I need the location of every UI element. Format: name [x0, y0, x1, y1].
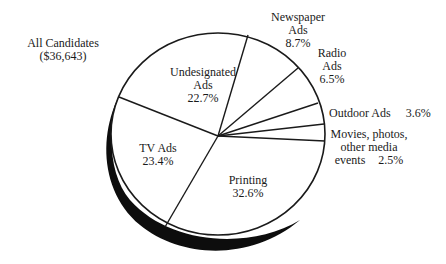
slice-label-printing: Printing 32.6%: [218, 174, 278, 200]
slice-label-outdoor: Outdoor Ads 3.6%: [329, 107, 431, 120]
chart-title: All Candidates ($36,643): [18, 37, 108, 63]
slice-label-undesignated: Undesignated Ads 22.7%: [163, 66, 243, 105]
slice-label-newspaper: Newspaper Ads 8.7%: [262, 11, 334, 50]
slice-label-movies: Movies, photos, other media events 2.5%: [328, 128, 410, 167]
slice-label-radio: Radio Ads 6.5%: [312, 47, 352, 86]
slice-label-tv: TV Ads 23.4%: [130, 142, 186, 168]
title-line-2: ($36,643): [18, 50, 108, 63]
